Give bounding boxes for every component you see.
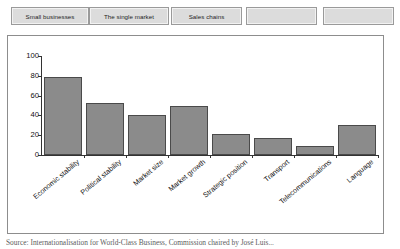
y-tick-mark: [38, 155, 41, 156]
x-tick-mark: [126, 155, 127, 158]
chart-frame: 020406080100 Economic stabilityPolitical…: [7, 35, 384, 234]
x-axis-labels: Economic stabilityPolitical stabilityMar…: [42, 158, 378, 228]
tab-empty-1[interactable]: [246, 7, 317, 25]
y-tick-mark: [38, 96, 41, 97]
bars-area: [42, 56, 378, 155]
y-tick-label: 0: [17, 151, 39, 159]
tab-bar: Small businesses The single market Sales…: [0, 0, 400, 32]
bar[interactable]: [44, 77, 83, 155]
y-tick-label: 80: [17, 72, 39, 80]
source-caption: Source: Internationalisation for World-C…: [6, 238, 398, 247]
tab-small-businesses[interactable]: Small businesses: [11, 7, 89, 25]
tab-label: The single market: [104, 13, 154, 20]
tab-sales-chains[interactable]: Sales chains: [171, 7, 242, 25]
x-axis-category-text: Strategic position: [202, 158, 249, 200]
x-axis-category-text: Market growth: [168, 158, 208, 193]
x-tick-mark: [210, 155, 211, 158]
x-tick-mark: [84, 155, 85, 158]
y-tick-mark: [38, 56, 41, 57]
y-axis-labels: 020406080100: [13, 36, 39, 235]
y-tick-label: 100: [17, 52, 39, 60]
x-tick-mark: [294, 155, 295, 158]
y-tick-label: 60: [17, 92, 39, 100]
tab-label: Small businesses: [26, 13, 75, 20]
y-tick-label: 20: [17, 131, 39, 139]
y-tick-mark: [38, 115, 41, 116]
tab-empty-2[interactable]: [323, 7, 394, 25]
bar-slot: [294, 56, 336, 155]
bar-slot: [42, 56, 84, 155]
x-axis-category-text: Language: [346, 158, 376, 185]
y-tick-label: 40: [17, 111, 39, 119]
x-axis-category-text: Market size: [132, 158, 165, 188]
x-axis-category-text: Political stability: [80, 158, 124, 197]
tab-label: Sales chains: [189, 13, 225, 20]
bar-chart: 020406080100 Economic stabilityPolitical…: [8, 36, 385, 235]
y-tick-mark: [38, 76, 41, 77]
x-tick-mark: [336, 155, 337, 158]
x-tick-mark: [168, 155, 169, 158]
y-tick-mark: [38, 135, 41, 136]
tab-the-single-market[interactable]: The single market: [89, 7, 169, 25]
x-tick-mark: [378, 155, 379, 158]
x-tick-mark: [252, 155, 253, 158]
x-axis-category-text: Transport: [263, 158, 292, 184]
x-axis-category-text: Economic stability: [32, 158, 81, 201]
